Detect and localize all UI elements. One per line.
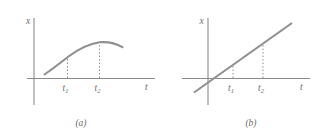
- panel-a-caption: (a): [75, 118, 86, 129]
- panel-b-tick-label-t2: t2: [258, 83, 265, 94]
- panel-b-caption: (b): [245, 118, 256, 129]
- panel-a-data-curve: [45, 42, 123, 74]
- panel-a-plot: x t t1 t2 (a): [0, 0, 164, 140]
- panel-b-tick-label-t1: t1: [228, 83, 234, 94]
- panel-b: x t t1 t2 (b): [163, 0, 327, 140]
- panel-a-y-axis-label: x: [25, 16, 31, 26]
- figure-root: x t t1 t2 (a) x t t1 t2: [0, 0, 327, 140]
- panel-a: x t t1 t2 (a): [0, 0, 164, 140]
- panel-b-x-axis-label: t: [300, 82, 303, 92]
- panel-a-tick-label-t1: t1: [63, 83, 69, 94]
- panel-b-data-line: [194, 23, 292, 93]
- panel-b-y-axis-label: x: [199, 16, 205, 26]
- panel-a-tick-label-t2: t2: [95, 83, 102, 94]
- panel-a-x-axis-label: t: [145, 82, 148, 92]
- panel-b-plot: x t t1 t2 (b): [163, 0, 327, 140]
